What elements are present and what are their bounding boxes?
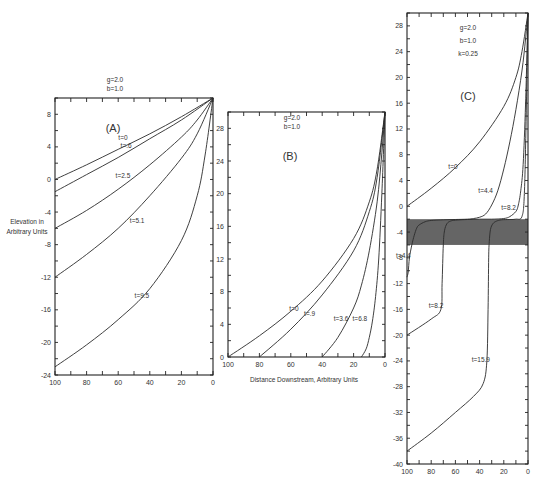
x-tick-label: 60: [114, 379, 122, 386]
x-tick-label: 80: [256, 361, 264, 368]
x-tick-label: 40: [318, 361, 326, 368]
series-line-t51: [55, 98, 213, 277]
panel-title: (B): [283, 150, 298, 162]
y-tick-label: 28: [395, 22, 403, 29]
y-tick-label: -20: [393, 332, 403, 339]
parameter-label: g=2.0: [460, 24, 477, 32]
x-tick-label: 20: [350, 361, 358, 368]
x-tick-label: 80: [83, 379, 91, 386]
y-tick-label: 12: [216, 256, 224, 263]
x-tick-label: 100: [49, 379, 61, 386]
series-line-t25: [55, 98, 213, 228]
parameter-label: g=2.0: [107, 76, 124, 84]
parameter-label: k=0.25: [458, 50, 478, 57]
y-tick-label: -12: [41, 274, 51, 281]
x-tick-label: 20: [178, 379, 186, 386]
y-tick-label: -32: [393, 409, 403, 416]
x-tick-label: 100: [401, 468, 413, 475]
parameter-label: g=2.0: [284, 114, 301, 122]
y-tick-label: 24: [395, 48, 403, 55]
x-tick-label: 0: [211, 379, 215, 386]
curve-label: t=.6: [121, 142, 132, 149]
panel-c-chart: 1008060402002824201612840-4-8-12-16-20-2…: [393, 13, 530, 475]
panel-title: (C): [460, 90, 475, 102]
y-tick-label: -24: [41, 372, 51, 379]
plot-frame: [55, 98, 213, 375]
x-tick-label: 80: [427, 468, 435, 475]
y-tick-label: -24: [393, 357, 403, 364]
curve-label: t=6.8: [353, 315, 368, 322]
y-tick-label: -36: [393, 435, 403, 442]
curve-label: t=0: [118, 134, 128, 141]
curve-label: t=.9: [304, 310, 315, 317]
y-tick-label: -20: [41, 339, 51, 346]
curve-label: t=4.4: [396, 252, 411, 259]
parameter-label: b=1.0: [460, 37, 477, 44]
y-tick-label: 12: [395, 125, 403, 132]
x-tick-label: 20: [500, 468, 508, 475]
y-tick-label: 20: [216, 190, 224, 197]
y-tick-label: 8: [399, 151, 403, 158]
curve-label: t=0: [448, 163, 458, 170]
y-axis-title-line1: Elevation in: [10, 218, 44, 225]
curve-label: t=8.2: [501, 204, 516, 211]
y-tick-label: -4: [45, 209, 51, 216]
y-tick-label: 0: [399, 203, 403, 210]
parameter-label: b=1.0: [284, 123, 301, 130]
y-tick-label: 4: [47, 143, 51, 150]
y-tick-label: 4: [399, 177, 403, 184]
panel-title: (A): [106, 122, 121, 134]
y-tick-label: 0: [47, 176, 51, 183]
curve-label: t=2.5: [116, 172, 131, 179]
y-tick-label: 8: [47, 111, 51, 118]
curve-label: t=8.2: [429, 302, 444, 309]
x-tick-label: 0: [526, 468, 530, 475]
figure-canvas: 100806040200840-4-8-12-16-20-24t=0t=.6t=…: [0, 0, 538, 484]
curve-label: t=3.6: [334, 315, 349, 322]
y-tick-label: 24: [216, 158, 224, 165]
y-tick-label: -40: [393, 461, 403, 468]
y-tick-label: 20: [395, 74, 403, 81]
y-tick-label: -28: [393, 383, 403, 390]
x-axis-title: Distance Downstream, Arbitrary Units: [250, 376, 359, 384]
y-tick-label: -16: [41, 306, 51, 313]
panel-a-chart: 100806040200840-4-8-12-16-20-24t=0t=.6t=…: [41, 76, 215, 386]
y-tick-label: -4: [397, 229, 403, 236]
series-line-t95: [55, 98, 213, 367]
y-tick-label: 4: [220, 321, 224, 328]
series-line-t82: [407, 13, 528, 335]
parameter-label: b=1.0: [107, 85, 124, 92]
panel-b-chart: 1008060402000481216202428t=0t=.9t=3.6t=6…: [216, 112, 387, 368]
x-tick-label: 60: [452, 468, 460, 475]
curve-label: t=15.9: [472, 356, 491, 363]
series-line-t0: [55, 98, 213, 179]
curve-label: t=4.4: [478, 187, 493, 194]
y-axis-title-line2: Arbitrary Units: [6, 228, 48, 236]
curve-label: t=9.5: [135, 292, 150, 299]
y-tick-label: 16: [216, 223, 224, 230]
y-tick-label: 16: [395, 100, 403, 107]
y-tick-label: 0: [220, 354, 224, 361]
x-tick-label: 40: [476, 468, 484, 475]
y-tick-label: -16: [393, 306, 403, 313]
x-tick-label: 40: [146, 379, 154, 386]
y-tick-label: 28: [216, 125, 224, 132]
x-tick-label: 60: [287, 361, 295, 368]
shaded-band: [407, 219, 528, 245]
curve-label: t=5.1: [130, 217, 145, 224]
x-tick-label: 100: [222, 361, 234, 368]
y-tick-label: -12: [393, 280, 403, 287]
y-tick-label: -8: [45, 241, 51, 248]
y-tick-label: 8: [220, 288, 224, 295]
curve-label: t=0: [289, 305, 299, 312]
x-tick-label: 0: [383, 361, 387, 368]
